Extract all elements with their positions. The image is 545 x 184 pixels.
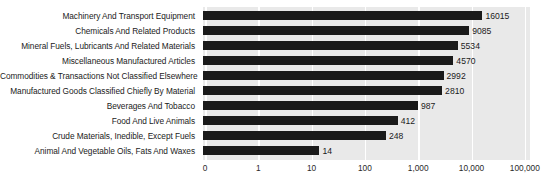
plot-area: 160159085553445702992281098741224814: [203, 7, 530, 160]
bar-value-label: 412: [398, 114, 415, 129]
x-axis-tick-label: 1,000: [408, 161, 429, 175]
x-axis-tick-label: 1: [256, 161, 261, 175]
x-axis-tick-label: 100,000: [510, 161, 540, 175]
bar[interactable]: [203, 146, 319, 155]
bar[interactable]: [203, 131, 386, 140]
bar-row: 5534: [203, 39, 530, 54]
bar-row: 987: [203, 99, 530, 114]
bar-row: 2992: [203, 69, 530, 84]
category-label: Mineral Fuels, Lubricants And Related Ma…: [0, 39, 199, 54]
bar-value-label: 248: [386, 129, 403, 144]
category-label: Miscellaneous Manufactured Articles: [0, 54, 199, 69]
bar-row: 248: [203, 129, 530, 144]
bar-row: 2810: [203, 84, 530, 99]
bar-value-label: 4570: [453, 54, 475, 69]
bar[interactable]: [203, 71, 444, 80]
bar[interactable]: [203, 11, 482, 20]
bar[interactable]: [203, 86, 442, 95]
bar-row: 16015: [203, 9, 530, 24]
category-label: Commodities & Transactions Not Classifie…: [0, 69, 199, 84]
category-label: Machinery And Transport Equipment: [0, 9, 199, 24]
bar[interactable]: [203, 41, 458, 50]
bar-value-label: 5534: [458, 39, 480, 54]
bars-layer: 160159085553445702992281098741224814: [203, 7, 530, 160]
bar-value-label: 16015: [482, 9, 509, 24]
x-axis-tick-label: 0: [203, 161, 208, 175]
bar-row: 9085: [203, 24, 530, 39]
bar[interactable]: [203, 26, 469, 35]
bar[interactable]: [203, 101, 418, 110]
bar-chart: Machinery And Transport EquipmentChemica…: [0, 0, 545, 184]
x-axis-tick-label: 10,000: [459, 161, 484, 175]
category-axis: Machinery And Transport EquipmentChemica…: [0, 9, 199, 159]
x-axis-tick-label: 100: [358, 161, 372, 175]
x-axis-tick-label: 10: [307, 161, 316, 175]
bar-value-label: 987: [418, 99, 435, 114]
bar-row: 4570: [203, 54, 530, 69]
category-label: Food And Live Animals: [0, 114, 199, 129]
bar[interactable]: [203, 116, 398, 125]
category-label: Chemicals And Related Products: [0, 24, 199, 39]
category-label: Beverages And Tobacco: [0, 99, 199, 114]
category-label: Animal And Vegetable Oils, Fats And Waxe…: [0, 144, 199, 159]
category-label: Crude Materials, Inedible, Except Fuels: [0, 129, 199, 144]
bar-value-label: 2810: [442, 84, 464, 99]
bar[interactable]: [203, 56, 453, 65]
bar-row: 14: [203, 144, 530, 159]
x-axis: 01101001,00010,000100,000: [203, 161, 530, 177]
category-label: Manufactured Goods Classified Chiefly By…: [0, 84, 199, 99]
bar-row: 412: [203, 114, 530, 129]
bar-value-label: 14: [319, 144, 332, 159]
bar-value-label: 2992: [444, 69, 466, 84]
bar-value-label: 9085: [469, 24, 491, 39]
